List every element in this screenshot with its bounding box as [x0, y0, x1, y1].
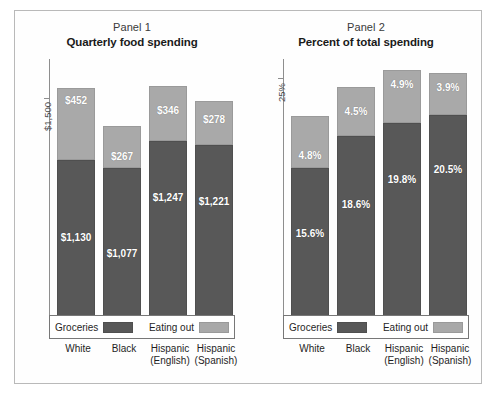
- panel-1-cat-hispanic-english-line1: Hispanic: [151, 343, 189, 354]
- bar-pct-hispanic-spanish-eating-out-label: 3.9%: [430, 82, 466, 93]
- panel-1-cat-hispanic-spanish: Hispanic (Spanish): [190, 343, 242, 367]
- bar-white[interactable]: $452 $1,130: [57, 88, 95, 339]
- bar-hispanic-english-groceries-label: $1,247: [150, 192, 186, 203]
- panel-1-y-tick-label: $1,500: [42, 97, 53, 137]
- bar-black-eating-out-label: $267: [104, 151, 140, 162]
- bar-white-eating-out-label: $452: [58, 95, 94, 106]
- panel-1-cat-white-line1: White: [65, 343, 91, 354]
- figure-container: Panel 1 Quarterly food spending $1,500 $…: [14, 10, 482, 384]
- panel-2-cat-black-line1: Black: [346, 343, 370, 354]
- bar-pct-white-eating-out: 4.8%: [291, 116, 329, 168]
- panel-2-cat-hispanic-spanish-line1: Hispanic: [431, 343, 469, 354]
- bar-pct-hispanic-spanish-groceries: 20.5%: [429, 115, 467, 339]
- panel-2-cat-hispanic-english-line2: (English): [378, 355, 430, 367]
- panel-2-y-tick-label: 25%: [276, 77, 287, 109]
- panel-2-cat-white: White: [286, 343, 338, 355]
- bar-hispanic-spanish[interactable]: $278 $1,221: [195, 101, 233, 339]
- bar-pct-black-eating-out-label: 4.5%: [338, 106, 374, 117]
- panel-2-cat-hispanic-spanish: Hispanic (Spanish): [424, 343, 476, 367]
- panel-2: Panel 2 Percent of total spending 25% 4.…: [249, 11, 483, 385]
- panel-2-bars: 4.8% 15.6% 4.5% 18.6%: [291, 59, 469, 339]
- panel-2-cat-hispanic-spanish-line2: (Spanish): [424, 355, 476, 367]
- panel-2-legend: Groceries Eating out: [283, 315, 469, 339]
- bar-pct-hispanic-spanish-groceries-label: 20.5%: [430, 164, 466, 175]
- panel-2-legend-eating-out-text: Eating out: [383, 322, 428, 333]
- bar-pct-hispanic-english-eating-out: 4.9%: [383, 70, 421, 123]
- panel-1-legend-eating-out-text: Eating out: [149, 322, 194, 333]
- panel-1-cat-hispanic-spanish-line2: (Spanish): [190, 355, 242, 367]
- panel-2-category-labels: White Black Hispanic (English) Hispanic …: [291, 343, 469, 383]
- panel-1-title: Quarterly food spending: [15, 36, 249, 48]
- bar-pct-black-eating-out: 4.5%: [337, 87, 375, 136]
- bar-hispanic-english-eating-out-label: $346: [150, 105, 186, 116]
- bar-pct-hispanic-english-groceries-label: 19.8%: [384, 174, 420, 185]
- bar-pct-black-groceries-label: 18.6%: [338, 199, 374, 210]
- bar-hispanic-spanish-groceries: $1,221: [195, 145, 233, 339]
- bar-pct-hispanic-spanish-eating-out: 3.9%: [429, 73, 467, 115]
- bar-pct-white-eating-out-label: 4.8%: [292, 150, 328, 161]
- bar-white-eating-out: $452: [57, 88, 95, 160]
- bar-pct-white-groceries-label: 15.6%: [292, 228, 328, 239]
- bar-hispanic-english[interactable]: $346 $1,247: [149, 86, 187, 339]
- panel-1-category-labels: White Black Hispanic (English) Hispanic …: [57, 343, 235, 383]
- panel-1-cat-white: White: [52, 343, 104, 355]
- panel-1-legend-groceries-text: Groceries: [55, 322, 98, 333]
- panel-2-title: Percent of total spending: [249, 36, 483, 48]
- bar-pct-black[interactable]: 4.5% 18.6%: [337, 87, 375, 339]
- panel-2-cat-hispanic-english: Hispanic (English): [378, 343, 430, 367]
- panel-1: Panel 1 Quarterly food spending $1,500 $…: [15, 11, 249, 385]
- bar-pct-hispanic-spanish[interactable]: 3.9% 20.5%: [429, 73, 467, 339]
- panel-1-legend-eating-out: Eating out: [149, 322, 229, 333]
- panel-2-label: Panel 2: [249, 21, 483, 33]
- bar-black-groceries-label: $1,077: [104, 248, 140, 259]
- panel-2-legend-eating-out-swatch: [433, 322, 463, 333]
- bar-hispanic-english-groceries: $1,247: [149, 141, 187, 339]
- bar-hispanic-spanish-groceries-label: $1,221: [196, 196, 232, 207]
- panel-1-cat-black-line1: Black: [112, 343, 136, 354]
- panel-2-legend-groceries-text: Groceries: [289, 322, 332, 333]
- bar-pct-white[interactable]: 4.8% 15.6%: [291, 116, 329, 339]
- panel-2-cat-white-line1: White: [299, 343, 325, 354]
- bar-pct-hispanic-english-eating-out-label: 4.9%: [384, 79, 420, 90]
- panel-2-legend-groceries-swatch: [337, 322, 367, 333]
- panel-2-legend-groceries: Groceries: [289, 322, 367, 333]
- bar-white-groceries: $1,130: [57, 160, 95, 339]
- bar-black-eating-out: $267: [103, 126, 141, 168]
- bar-hispanic-spanish-eating-out-label: $278: [196, 114, 232, 125]
- panel-1-cat-hispanic-spanish-line1: Hispanic: [197, 343, 235, 354]
- panel-1-cat-hispanic-english: Hispanic (English): [144, 343, 196, 367]
- panel-1-cat-hispanic-english-line2: (English): [144, 355, 196, 367]
- panel-1-legend: Groceries Eating out: [49, 315, 235, 339]
- panel-1-plot-area: $1,500 $452 $1,130 $267: [49, 59, 235, 339]
- panel-1-legend-groceries: Groceries: [55, 322, 133, 333]
- panel-2-cat-hispanic-english-line1: Hispanic: [385, 343, 423, 354]
- panel-1-legend-groceries-swatch: [103, 322, 133, 333]
- bar-pct-black-groceries: 18.6%: [337, 136, 375, 339]
- panel-1-bars: $452 $1,130 $267 $1,077: [57, 59, 235, 339]
- bar-white-groceries-label: $1,130: [58, 232, 94, 243]
- bar-hispanic-english-eating-out: $346: [149, 86, 187, 141]
- panel-1-label: Panel 1: [15, 21, 249, 33]
- panel-2-legend-eating-out: Eating out: [383, 322, 463, 333]
- panel-2-plot-area: 25% 4.8% 15.6% 4.5%: [283, 59, 469, 339]
- panel-1-cat-black: Black: [98, 343, 150, 355]
- bar-pct-white-groceries: 15.6%: [291, 168, 329, 339]
- bar-pct-hispanic-english-groceries: 19.8%: [383, 123, 421, 339]
- bar-black[interactable]: $267 $1,077: [103, 126, 141, 339]
- panel-2-cat-black: Black: [332, 343, 384, 355]
- panel-1-legend-eating-out-swatch: [199, 322, 229, 333]
- bar-hispanic-spanish-eating-out: $278: [195, 101, 233, 145]
- bar-pct-hispanic-english[interactable]: 4.9% 19.8%: [383, 70, 421, 339]
- bar-black-groceries: $1,077: [103, 168, 141, 339]
